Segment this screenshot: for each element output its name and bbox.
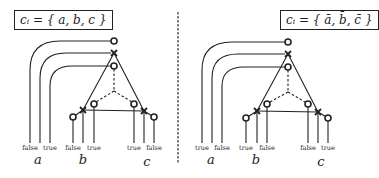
right-a-label-2: false (214, 144, 230, 152)
left-b-label-1: false (65, 144, 81, 152)
right-var-a: a (207, 152, 215, 167)
right-var-c: c (317, 154, 325, 169)
right-b-label-1: true (239, 144, 253, 152)
left-var-b: b (79, 152, 87, 167)
left-gadget (30, 41, 154, 143)
left-c-label-2: false (146, 144, 162, 152)
right-gadget (202, 42, 328, 143)
right-c-label-2: true (321, 144, 335, 152)
right-a-label-1: true (195, 144, 209, 152)
right-b-label-2: false (259, 144, 275, 152)
left-var-c: c (143, 154, 151, 169)
left-c-label-1: true (127, 144, 141, 152)
left-a-label-2: true (43, 144, 57, 152)
left-b-label-2: true (87, 144, 101, 152)
left-a-label-1: false (22, 144, 38, 152)
left-var-a: a (34, 152, 42, 167)
right-var-b: b (252, 152, 260, 167)
right-c-label-1: false (300, 144, 316, 152)
